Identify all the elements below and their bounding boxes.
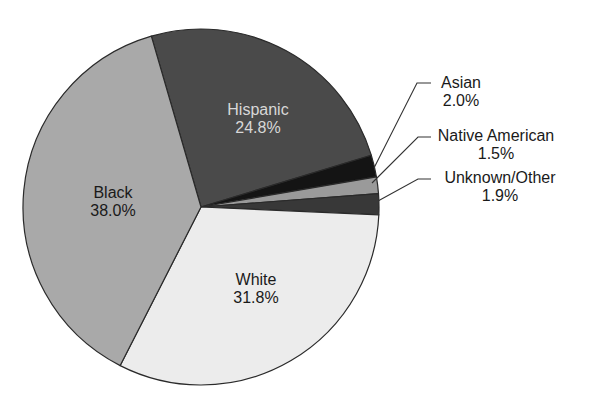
pie-chart: Hispanic24.8%White31.8%Black38.0%Asian2.… — [0, 0, 593, 400]
slice-percent-label: 38.0% — [90, 202, 135, 219]
slice-category-label: Native American — [438, 127, 555, 144]
slice-label-native-american: Native American1.5% — [438, 127, 555, 162]
slice-label-unknown-other: Unknown/Other1.9% — [444, 169, 556, 204]
slice-label-black: Black38.0% — [90, 184, 135, 219]
slice-label-white: White31.8% — [233, 271, 278, 306]
leader-line-asian — [374, 83, 431, 168]
slice-category-label: Unknown/Other — [444, 169, 556, 186]
slice-label-hispanic: Hispanic24.8% — [227, 101, 288, 136]
slice-percent-label: 24.8% — [235, 119, 280, 136]
slice-category-label: White — [236, 271, 277, 288]
pie-slices — [23, 29, 379, 385]
leader-line-native-american — [372, 137, 431, 183]
pie-chart-canvas: Hispanic24.8%White31.8%Black38.0%Asian2.… — [0, 0, 593, 400]
slice-percent-label: 2.0% — [443, 92, 479, 109]
slice-percent-label: 31.8% — [233, 289, 278, 306]
slice-category-label: Asian — [441, 74, 481, 91]
leader-line-unknown-other — [378, 179, 431, 201]
slice-percent-label: 1.5% — [478, 145, 514, 162]
slice-label-asian: Asian2.0% — [441, 74, 481, 109]
slice-percent-label: 1.9% — [482, 187, 518, 204]
leader-lines — [372, 83, 431, 201]
slice-category-label: Black — [93, 184, 133, 201]
slice-category-label: Hispanic — [227, 101, 288, 118]
